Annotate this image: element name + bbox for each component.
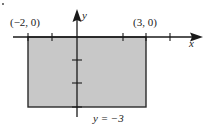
region-diagram: (−2, 0) (3, 0) x y y = −3	[0, 0, 206, 127]
point-label-right: (3, 0)	[133, 16, 157, 29]
y-axis-label: y	[81, 9, 87, 21]
shaded-region	[28, 37, 146, 107]
corner-mark	[2, 3, 4, 5]
x-axis-label: x	[188, 37, 194, 49]
bottom-line-label: y = −3	[92, 112, 124, 124]
point-label-left: (−2, 0)	[10, 16, 40, 29]
